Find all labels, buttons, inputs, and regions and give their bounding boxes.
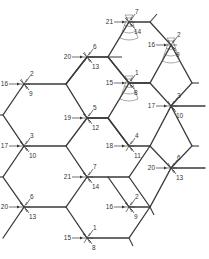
hex-lattice-diagram: 2061321714162915181629195121731017310184… [0, 0, 209, 259]
junction-star-icon [166, 163, 177, 173]
junction-label-top: 2 [177, 31, 181, 38]
junction-label-bottom: 13 [29, 213, 37, 220]
junction-label-left: 21 [64, 173, 72, 180]
junction-label-top: 3 [177, 92, 181, 99]
junction-label-left: 20 [64, 53, 72, 60]
junction-star-icon [19, 202, 30, 212]
junction-label-left: 17 [148, 102, 156, 109]
junction-label-top: 5 [93, 104, 97, 111]
junction-label-top: 2 [135, 193, 139, 200]
junction-label-top: 1 [93, 224, 97, 231]
junction-label-bottom: 13 [92, 63, 100, 70]
junction-label-bottom: 13 [176, 174, 184, 181]
junction-star-icon [166, 101, 177, 111]
junction-label-top: 6 [30, 193, 34, 200]
junction-label-bottom: 9 [29, 90, 33, 97]
junction-label-bottom: 11 [134, 152, 141, 159]
junction-label-top: 6 [177, 154, 181, 161]
junction-node: 21714 [106, 8, 142, 40]
junction-label-left: 20 [148, 164, 156, 171]
junction-label-left: 16 [1, 80, 9, 87]
junction-star-icon [19, 141, 30, 151]
junction-label-left: 18 [106, 142, 114, 149]
junction-star-icon [82, 233, 93, 243]
junction-label-left: 15 [64, 234, 72, 241]
junction-label-top: 6 [93, 43, 97, 50]
junction-label-bottom: 8 [92, 244, 96, 251]
junction-star-icon [19, 79, 30, 89]
junction-label-left: 20 [1, 203, 9, 210]
junction-label-left: 17 [1, 142, 9, 149]
junction-star-icon [124, 202, 135, 212]
junction-label-top: 4 [135, 132, 139, 139]
junction-label-left: 15 [106, 79, 114, 86]
junction-star-icon [82, 172, 93, 182]
junction-label-top: 7 [135, 8, 139, 15]
junction-layer: 2061321714162915181629195121731017310184… [1, 8, 184, 251]
junction-star-icon [124, 141, 135, 151]
junction-label-bottom: 10 [29, 152, 37, 159]
junction-label-top: 1 [135, 69, 139, 76]
junction-label-left: 19 [64, 114, 72, 121]
junction-label-left: 16 [106, 203, 114, 210]
junction-label-bottom: 14 [134, 28, 142, 35]
junction-label-bottom: 9 [176, 51, 180, 58]
junction-label-top: 3 [30, 132, 34, 139]
junction-label-bottom: 12 [92, 124, 100, 131]
junction-label-top: 2 [30, 70, 34, 77]
junction-label-bottom: 8 [134, 89, 138, 96]
junction-label-bottom: 9 [134, 213, 138, 220]
junction-label-bottom: 14 [92, 183, 100, 190]
junction-label-top: 7 [93, 163, 97, 170]
junction-label-bottom: 10 [176, 112, 184, 119]
junction-label-left: 16 [148, 41, 156, 48]
junction-label-left: 21 [106, 18, 114, 25]
